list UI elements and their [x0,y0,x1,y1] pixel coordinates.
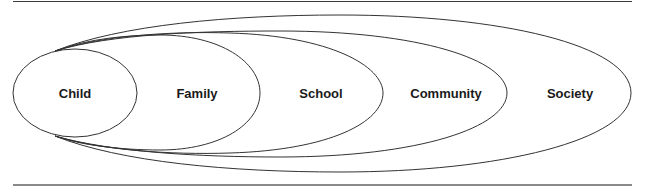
label-society: Society [547,86,593,101]
bottom-rule [13,184,632,186]
label-school: School [299,86,342,101]
society-ellipse [55,15,631,172]
label-family: Family [176,86,217,101]
nested-ellipses-diagram: Child Family School Community Society [0,0,647,192]
label-community: Community [410,86,482,101]
label-child: Child [59,86,92,101]
